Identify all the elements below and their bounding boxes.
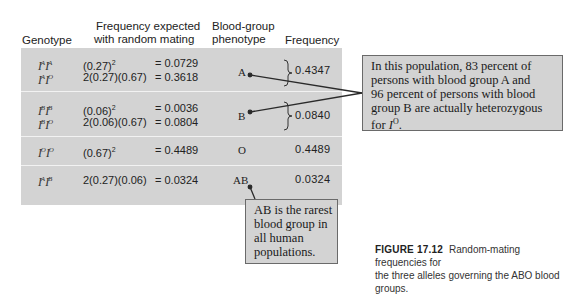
callout-line: blood group in — [254, 217, 337, 231]
dot-ab — [248, 185, 252, 189]
callout-line: all human — [254, 231, 337, 245]
callout-line: AB is the rarest — [254, 203, 337, 217]
callout-line: persons with blood group A and — [371, 73, 562, 87]
callout-line: populations. — [254, 245, 337, 259]
callout-line: for IO. — [371, 115, 562, 132]
callout-line: In this population, 83 percent of — [371, 59, 562, 73]
figure-label: FIGURE 17.12 — [375, 244, 443, 255]
dot-b — [248, 110, 252, 114]
caption-line2: the three alleles governing the ABO bloo… — [375, 269, 563, 295]
callout-heterozygous: In this population, 83 percent of person… — [362, 55, 563, 131]
callout-rarest: AB is the rarest blood group in all huma… — [245, 199, 338, 264]
figure-caption: FIGURE 17.12Random-mating frequencies fo… — [375, 243, 563, 295]
dot-a — [248, 73, 252, 77]
callout-line: group B are actually heterozygous — [371, 101, 562, 115]
callout-line: 96 percent of persons with blood — [371, 87, 562, 101]
